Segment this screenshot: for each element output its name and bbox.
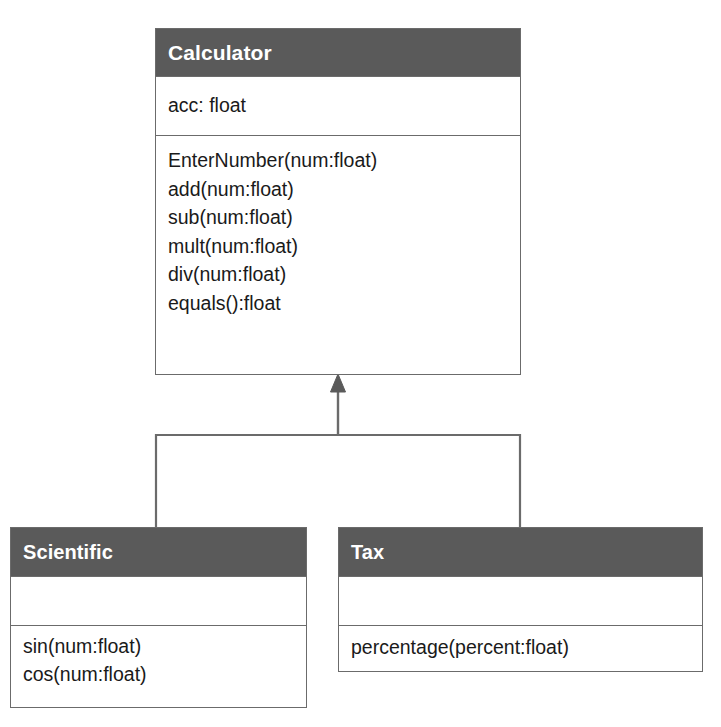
attributes-compartment-tax [339, 576, 702, 625]
operation-row: cos(num:float) [23, 661, 306, 689]
operation-row: percentage(percent:float) [351, 635, 702, 661]
class-name-tax: Tax [339, 528, 702, 576]
operation-row: sin(num:float) [23, 633, 306, 661]
generalization-arrowhead [331, 374, 346, 392]
operation-row: EnterNumber(num:float) [168, 146, 520, 175]
uml-class-diagram-canvas: Calculator acc: float EnterNumber(num:fl… [0, 0, 721, 727]
operation-row: sub(num:float) [168, 203, 520, 232]
attributes-compartment-calculator: acc: float [156, 76, 520, 135]
operation-row: div(num:float) [168, 260, 520, 289]
operation-row: equals():float [168, 289, 520, 318]
operations-compartment-tax: percentage(percent:float) [339, 625, 702, 667]
operation-row: add(num:float) [168, 175, 520, 204]
operations-compartment-scientific: sin(num:float) cos(num:float) [11, 625, 306, 694]
uml-class-tax[interactable]: Tax percentage(percent:float) [338, 527, 703, 672]
attribute-row: acc: float [168, 93, 520, 119]
class-name-calculator: Calculator [156, 29, 520, 76]
operation-row: mult(num:float) [168, 232, 520, 261]
uml-class-scientific[interactable]: Scientific sin(num:float) cos(num:float) [10, 527, 307, 708]
uml-class-calculator[interactable]: Calculator acc: float EnterNumber(num:fl… [155, 28, 521, 375]
attributes-compartment-scientific [11, 576, 306, 625]
class-name-scientific: Scientific [11, 528, 306, 576]
operations-compartment-calculator: EnterNumber(num:float) add(num:float) su… [156, 135, 520, 323]
